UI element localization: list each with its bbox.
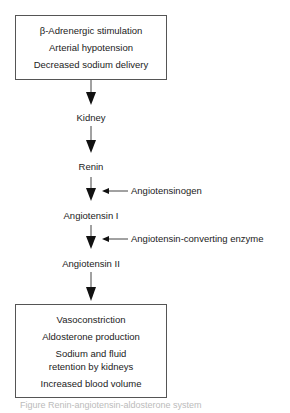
effect-blood-volume: Increased blood volume	[41, 377, 142, 390]
stimuli-box: β-Adrenergic stimulation Arterial hypote…	[15, 15, 167, 80]
stimulus-beta-adrenergic: β-Adrenergic stimulation	[40, 24, 143, 37]
arrow-to-angiotensin-ii	[86, 236, 96, 249]
node-angiotensin-i: Angiotensin I	[64, 210, 119, 221]
node-kidney: Kidney	[76, 112, 105, 123]
figure-caption: Figure Renin-angiotensin-aldosterone sys…	[20, 400, 202, 410]
arrow-to-angiotensin-i	[86, 188, 96, 201]
stimulus-arterial-hypotension: Arterial hypotension	[49, 41, 133, 54]
node-angiotensin-ii: Angiotensin II	[62, 258, 120, 269]
stimulus-decreased-sodium: Decreased sodium delivery	[34, 58, 149, 71]
effect-vasoconstriction: Vasoconstriction	[57, 313, 126, 326]
arrow-to-effects	[86, 287, 96, 301]
effects-box: Vasoconstriction Aldosterone production …	[15, 304, 167, 398]
input-ace: Angiotensin-converting enzyme	[131, 233, 264, 244]
effect-sodium-fluid-2: retention by kidneys	[49, 360, 134, 373]
input-angiotensinogen: Angiotensinogen	[131, 185, 202, 196]
effect-aldosterone: Aldosterone production	[42, 330, 140, 343]
arrow-to-renin	[86, 140, 96, 153]
node-renin: Renin	[79, 161, 104, 172]
arrow-to-kidney	[86, 92, 96, 105]
effect-sodium-fluid-1: Sodium and fluid	[56, 347, 127, 360]
